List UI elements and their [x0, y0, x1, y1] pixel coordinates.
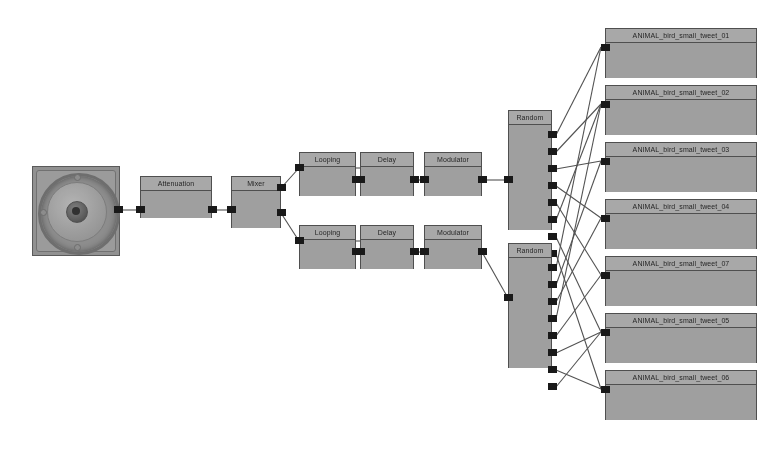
- node-attenuation-body: [141, 191, 211, 218]
- looping-a-input-port[interactable]: [295, 164, 304, 171]
- node-random-2-body: [509, 258, 551, 368]
- node-sample-2-label: ANIMAL_bird_small_tweet_02: [606, 86, 756, 100]
- wire-r2-o8: [556, 332, 601, 387]
- random-2-output-port-2[interactable]: [548, 281, 557, 288]
- node-sample-3[interactable]: ANIMAL_bird_small_tweet_03: [605, 142, 757, 192]
- speaker-output-port[interactable]: [114, 206, 123, 213]
- node-sample-3-label: ANIMAL_bird_small_tweet_03: [606, 143, 756, 157]
- node-attenuation[interactable]: Attenuation: [140, 176, 212, 218]
- speaker-bolt-bottom: [74, 244, 81, 251]
- node-random-1[interactable]: Random: [508, 110, 552, 230]
- node-random-2-label: Random: [509, 244, 551, 258]
- wire-r2-o4: [556, 104, 601, 319]
- wire-r1-o2: [556, 104, 601, 152]
- node-modulator-a-label: Modulator: [425, 153, 481, 167]
- wire-r1-o8: [556, 254, 601, 389]
- random-2-input-port[interactable]: [504, 294, 513, 301]
- random-2-output-port-8[interactable]: [548, 383, 557, 390]
- node-modulator-a[interactable]: Modulator: [424, 152, 482, 196]
- node-looping-a-label: Looping: [300, 153, 355, 167]
- node-sample-4[interactable]: ANIMAL_bird_small_tweet_04: [605, 199, 757, 249]
- wire-r2-o1: [556, 47, 601, 268]
- node-sample-5[interactable]: ANIMAL_bird_small_tweet_07: [605, 256, 757, 306]
- node-sample-4-body: [606, 214, 756, 249]
- attenuation-input-port[interactable]: [136, 206, 145, 213]
- node-looping-a[interactable]: Looping: [299, 152, 356, 196]
- random-1-input-port[interactable]: [504, 176, 513, 183]
- random-2-output-port-4[interactable]: [548, 315, 557, 322]
- diagram-canvas: Attenuation Mixer Looping Delay Modulato…: [0, 0, 776, 458]
- speaker-source-node[interactable]: [32, 166, 120, 256]
- node-delay-a-label: Delay: [361, 153, 413, 167]
- node-looping-a-body: [300, 167, 355, 196]
- delay-b-output-port[interactable]: [410, 248, 419, 255]
- node-sample-2[interactable]: ANIMAL_bird_small_tweet_02: [605, 85, 757, 135]
- node-mixer[interactable]: Mixer: [231, 176, 281, 228]
- speaker-bolt-top: [74, 174, 81, 181]
- mixer-output-port-1[interactable]: [277, 184, 286, 191]
- node-mixer-label: Mixer: [232, 177, 280, 191]
- node-delay-b-label: Delay: [361, 226, 413, 240]
- random-1-output-port-2[interactable]: [548, 148, 557, 155]
- node-modulator-a-body: [425, 167, 481, 196]
- random-1-output-port-7[interactable]: [548, 233, 557, 240]
- node-mixer-body: [232, 191, 280, 228]
- node-sample-7-body: [606, 385, 756, 420]
- looping-b-input-port[interactable]: [295, 237, 304, 244]
- node-delay-b[interactable]: Delay: [360, 225, 414, 269]
- node-delay-a[interactable]: Delay: [360, 152, 414, 196]
- speaker-center-icon: [72, 207, 80, 215]
- node-sample-6[interactable]: ANIMAL_bird_small_tweet_05: [605, 313, 757, 363]
- random-2-output-port-5[interactable]: [548, 332, 557, 339]
- node-sample-7-label: ANIMAL_bird_small_tweet_06: [606, 371, 756, 385]
- node-sample-2-body: [606, 100, 756, 135]
- node-sample-1-label: ANIMAL_bird_small_tweet_01: [606, 29, 756, 43]
- modulator-b-input-port[interactable]: [420, 248, 429, 255]
- random-1-output-port-6[interactable]: [548, 216, 557, 223]
- random-1-output-port-1[interactable]: [548, 131, 557, 138]
- node-attenuation-label: Attenuation: [141, 177, 211, 191]
- node-modulator-b-body: [425, 240, 481, 269]
- random-2-output-port-7[interactable]: [548, 366, 557, 373]
- sample-2-input-port[interactable]: [601, 101, 610, 108]
- modulator-b-output-port[interactable]: [478, 248, 487, 255]
- node-looping-b[interactable]: Looping: [299, 225, 356, 269]
- random-1-output-port-4[interactable]: [548, 182, 557, 189]
- node-random-1-label: Random: [509, 111, 551, 125]
- delay-b-input-port[interactable]: [356, 248, 365, 255]
- modulator-a-input-port[interactable]: [420, 176, 429, 183]
- node-sample-5-body: [606, 271, 756, 306]
- node-sample-4-label: ANIMAL_bird_small_tweet_04: [606, 200, 756, 214]
- mixer-output-port-2[interactable]: [277, 209, 286, 216]
- sample-7-input-port[interactable]: [601, 386, 610, 393]
- wire-r2-o2: [556, 161, 601, 285]
- random-2-output-port-6[interactable]: [548, 349, 557, 356]
- node-delay-a-body: [361, 167, 413, 196]
- node-sample-3-body: [606, 157, 756, 192]
- speaker-bolt-left: [40, 209, 47, 216]
- node-sample-5-label: ANIMAL_bird_small_tweet_07: [606, 257, 756, 271]
- sample-1-input-port[interactable]: [601, 44, 610, 51]
- random-2-output-port-1[interactable]: [548, 264, 557, 271]
- sample-3-input-port[interactable]: [601, 158, 610, 165]
- delay-a-output-port[interactable]: [410, 176, 419, 183]
- node-modulator-b-label: Modulator: [425, 226, 481, 240]
- attenuation-output-port[interactable]: [208, 206, 217, 213]
- diagram-scan-layer: Attenuation Mixer Looping Delay Modulato…: [0, 0, 776, 458]
- sample-6-input-port[interactable]: [601, 329, 610, 336]
- node-modulator-b[interactable]: Modulator: [424, 225, 482, 269]
- node-random-2[interactable]: Random: [508, 243, 552, 368]
- mixer-input-port[interactable]: [227, 206, 236, 213]
- random-1-output-port-3[interactable]: [548, 165, 557, 172]
- node-looping-b-body: [300, 240, 355, 269]
- sample-4-input-port[interactable]: [601, 215, 610, 222]
- node-sample-1[interactable]: ANIMAL_bird_small_tweet_01: [605, 28, 757, 78]
- node-sample-7[interactable]: ANIMAL_bird_small_tweet_06: [605, 370, 757, 420]
- delay-a-input-port[interactable]: [356, 176, 365, 183]
- modulator-a-output-port[interactable]: [478, 176, 487, 183]
- wire-r2-o6: [556, 332, 601, 353]
- node-random-1-body: [509, 125, 551, 230]
- random-1-output-port-5[interactable]: [548, 199, 557, 206]
- random-2-output-port-3[interactable]: [548, 298, 557, 305]
- sample-5-input-port[interactable]: [601, 272, 610, 279]
